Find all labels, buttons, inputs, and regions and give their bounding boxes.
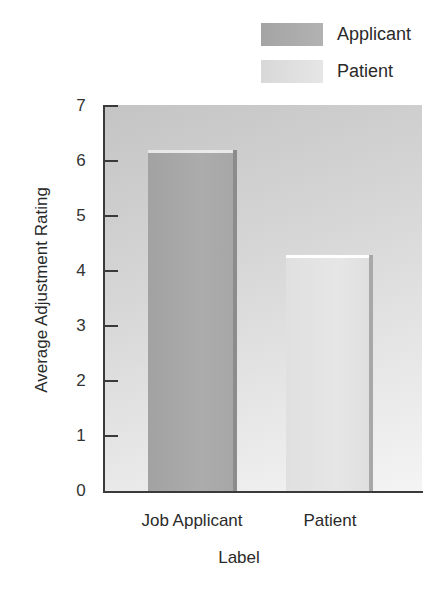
y-tick-3 bbox=[104, 325, 118, 327]
y-tick-1 bbox=[104, 435, 118, 437]
y-tick-label-7: 7 bbox=[66, 96, 96, 116]
x-tick-label-job-applicant: Job Applicant bbox=[112, 510, 272, 532]
y-tick-label-6: 6 bbox=[66, 151, 96, 171]
y-tick-7 bbox=[104, 105, 118, 107]
y-tick-6 bbox=[104, 160, 118, 162]
y-tick-label-3: 3 bbox=[66, 316, 96, 336]
x-axis-title: Label bbox=[0, 547, 448, 569]
y-tick-label-2: 2 bbox=[66, 371, 96, 391]
bar-top-highlight bbox=[148, 150, 237, 153]
bar-top-highlight bbox=[286, 255, 373, 258]
legend-swatch-applicant bbox=[261, 23, 323, 46]
y-axis-title: Average Adjustment Rating bbox=[31, 187, 53, 393]
y-tick-label-4: 4 bbox=[66, 261, 96, 281]
y-tick-2 bbox=[104, 380, 118, 382]
y-tick-label-1: 1 bbox=[66, 426, 96, 446]
bar-job-applicant bbox=[148, 150, 237, 491]
bar-edge-shadow bbox=[233, 150, 237, 491]
bar-patient bbox=[286, 255, 373, 491]
bar-edge-shadow bbox=[369, 255, 373, 491]
legend-swatch-patient bbox=[261, 60, 323, 83]
x-tick-label-patient: Patient bbox=[255, 510, 405, 532]
y-tick-label-0: 0 bbox=[66, 481, 96, 501]
x-axis-line bbox=[103, 491, 423, 493]
y-tick-label-5: 5 bbox=[66, 206, 96, 226]
legend-item-applicant: Applicant bbox=[261, 23, 323, 46]
legend-label-patient: Patient bbox=[337, 59, 393, 83]
legend-item-patient: Patient bbox=[261, 60, 323, 83]
legend-label-applicant: Applicant bbox=[337, 22, 411, 46]
y-tick-5 bbox=[104, 215, 118, 217]
y-tick-4 bbox=[104, 270, 118, 272]
